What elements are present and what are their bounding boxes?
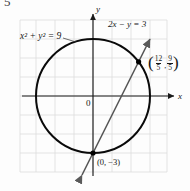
circle-equation-label: x² + y² = 9 xyxy=(20,32,61,42)
point-a-x-numerator: 12 xyxy=(154,55,164,63)
intersection-point-b xyxy=(90,150,95,155)
point-a-comma: , xyxy=(164,62,166,71)
point-a-x-denominator: 5 xyxy=(156,63,162,72)
point-b-label: (0, −3) xyxy=(97,158,120,167)
point-a-x-fraction: 12 5 xyxy=(154,55,164,71)
line-equation-label: 2x − y = 3 xyxy=(108,20,146,29)
point-a-label: ( 12 5 , 9 5 ) xyxy=(148,55,179,71)
origin-label: 0 xyxy=(86,99,91,108)
y-axis-label: y xyxy=(96,5,100,14)
coordinate-plane-svg xyxy=(0,0,190,191)
intersection-point-a xyxy=(136,59,141,64)
problem-number: 5 xyxy=(4,0,11,8)
point-a-close-paren: ) xyxy=(173,56,179,70)
graph-figure: 5 x² + y² = 9 2x − y = 3 0 x y (0, −3) (… xyxy=(0,0,190,191)
x-axis-label: x xyxy=(178,92,182,101)
